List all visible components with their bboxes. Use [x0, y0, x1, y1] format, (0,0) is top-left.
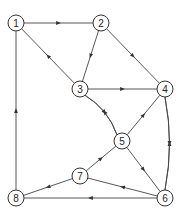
node-6: 6	[157, 190, 173, 206]
edge-3-to-5	[85, 95, 117, 135]
edge-2-to-4	[107, 29, 160, 84]
node-2: 2	[93, 15, 109, 31]
edge-7-to-8	[24, 179, 73, 196]
arrow-icon	[89, 53, 93, 58]
edge-1-to-2	[24, 21, 93, 25]
node-label: 2	[98, 18, 104, 29]
node-label: 4	[162, 84, 168, 95]
edge-5-to-3	[85, 95, 117, 135]
edge-5-to-6	[127, 147, 160, 191]
arrow-icon	[56, 21, 61, 25]
edge-3-to-1	[22, 29, 75, 84]
node-8: 8	[8, 190, 24, 206]
node-label: 5	[119, 136, 125, 147]
node-7: 7	[72, 168, 88, 184]
directed-graph: 12345678	[0, 0, 183, 213]
edge-8-to-1	[14, 31, 18, 190]
arrow-icon	[46, 184, 51, 188]
node-label: 3	[77, 84, 83, 95]
nodes: 12345678	[8, 15, 173, 206]
node-label: 7	[77, 171, 83, 182]
edge-6-to-7	[88, 178, 158, 196]
edge-2-to-3	[82, 31, 98, 82]
arrow-icon	[88, 196, 93, 200]
arrow-icon	[120, 87, 125, 91]
edge-6-to-4	[165, 97, 171, 190]
node-3: 3	[72, 81, 88, 97]
node-label: 8	[13, 193, 19, 204]
node-label: 1	[13, 18, 19, 29]
node-1: 1	[8, 15, 24, 31]
node-label: 6	[162, 193, 168, 204]
node-4: 4	[157, 81, 173, 97]
edge-7-to-5	[86, 146, 116, 171]
arrow-icon	[14, 108, 18, 113]
edges	[14, 21, 171, 200]
node-5: 5	[114, 133, 130, 149]
edge-3-to-4	[88, 87, 157, 91]
edge-6-to-8	[24, 196, 157, 200]
edge-5-to-4	[127, 95, 160, 135]
